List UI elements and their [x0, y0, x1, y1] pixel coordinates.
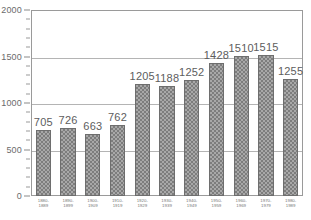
bar-group[interactable]: 1252 — [184, 10, 199, 196]
x-tick-label-line: 1959 — [204, 203, 229, 208]
bar[interactable] — [85, 134, 100, 196]
bar[interactable] — [110, 125, 125, 196]
y-minor-tick-700 — [26, 130, 30, 131]
bar-value-label: 726 — [59, 114, 78, 126]
y-minor-tick-300 — [26, 168, 30, 169]
x-tick-label: 1970-1979 — [254, 198, 279, 208]
x-tick-label-line: 1969 — [229, 203, 254, 208]
x-tick-label: 1900-1909 — [80, 198, 105, 208]
bar[interactable] — [184, 80, 199, 196]
x-tick-label: 1930-1939 — [155, 198, 180, 208]
y-minor-tick-400 — [26, 158, 30, 159]
bar-group[interactable]: 705 — [36, 10, 51, 196]
y-minor-tick-800 — [26, 121, 30, 122]
bar-value-label: 1252 — [179, 66, 204, 78]
bar-group[interactable]: 1205 — [135, 10, 150, 196]
bar-value-label: 1510 — [229, 42, 254, 54]
bar-value-label: 1255 — [278, 65, 303, 77]
bar-value-label: 663 — [83, 120, 102, 132]
y-minor-tick-1700 — [26, 37, 30, 38]
x-tick-label: 1960-1969 — [229, 198, 254, 208]
bar-value-label: 1515 — [253, 41, 278, 53]
bar-value-label: 1205 — [130, 70, 155, 82]
x-tick-label: 1890-1899 — [56, 198, 81, 208]
y-minor-tick-900 — [26, 112, 30, 113]
y-minor-tick-1800 — [26, 28, 30, 29]
bar-group[interactable]: 1428 — [209, 10, 224, 196]
x-tick-label-line: 1929 — [130, 203, 155, 208]
y-major-tick-2000 — [24, 10, 30, 11]
x-tick-label-line: 1949 — [179, 203, 204, 208]
x-tick-label: 1880-1889 — [31, 198, 56, 208]
y-major-tick-1500 — [24, 56, 30, 57]
bar[interactable] — [209, 63, 224, 196]
bar[interactable] — [258, 55, 273, 196]
x-tick-label: 1940-1949 — [179, 198, 204, 208]
x-tick-label-line: 1979 — [254, 203, 279, 208]
bar-group[interactable]: 663 — [85, 10, 100, 196]
x-axis: 1880-18891890-18991900-19091910-19191920… — [31, 198, 303, 218]
bar-value-label: 762 — [108, 111, 127, 123]
y-minor-tick-100 — [26, 186, 30, 187]
y-minor-tick-1200 — [26, 84, 30, 85]
y-minor-tick-1900 — [26, 19, 30, 20]
bar-chart: 0500100015002000 70572666376212051188125… — [0, 0, 311, 220]
bar-group[interactable]: 1515 — [258, 10, 273, 196]
bar[interactable] — [60, 128, 75, 196]
bars-layer: 7057266637621205118812521428151015151255 — [31, 10, 303, 196]
bar-value-label: 1428 — [204, 49, 229, 61]
bar-group[interactable]: 726 — [60, 10, 75, 196]
x-tick-label-line: 1919 — [105, 203, 130, 208]
bar-group[interactable]: 1188 — [159, 10, 174, 196]
x-tick-label: 1980-1989 — [278, 198, 303, 208]
x-tick-label: 1950-1959 — [204, 198, 229, 208]
x-tick-label-line: 1909 — [80, 203, 105, 208]
y-tick-label-1000: 1000 — [1, 98, 22, 108]
x-tick-label: 1910-1919 — [105, 198, 130, 208]
y-minor-tick-200 — [26, 177, 30, 178]
bar-group[interactable]: 762 — [110, 10, 125, 196]
y-tick-label-500: 500 — [6, 145, 22, 155]
bar-group[interactable]: 1510 — [234, 10, 249, 196]
bar-value-label: 1188 — [155, 72, 179, 84]
bar[interactable] — [159, 86, 174, 196]
y-tick-label-1500: 1500 — [1, 52, 22, 62]
bar[interactable] — [234, 56, 249, 196]
y-tick-label-2000: 2000 — [1, 5, 22, 15]
x-tick-label-line: 1899 — [56, 203, 81, 208]
y-axis: 0500100015002000 — [0, 0, 31, 220]
y-major-tick-1000 — [24, 103, 30, 104]
y-major-tick-0 — [24, 196, 30, 197]
bar[interactable] — [283, 79, 298, 196]
bar[interactable] — [36, 130, 51, 196]
x-tick-label-line: 1889 — [31, 203, 56, 208]
x-tick-label: 1920-1929 — [130, 198, 155, 208]
y-minor-tick-1300 — [26, 75, 30, 76]
y-minor-tick-1100 — [26, 93, 30, 94]
y-major-tick-500 — [24, 149, 30, 150]
bar-group[interactable]: 1255 — [283, 10, 298, 196]
bar-value-label: 705 — [34, 116, 53, 128]
y-tick-label-0: 0 — [17, 191, 22, 201]
y-minor-tick-1600 — [26, 47, 30, 48]
bar[interactable] — [135, 84, 150, 196]
y-minor-tick-600 — [26, 140, 30, 141]
x-tick-label-line: 1939 — [155, 203, 180, 208]
x-tick-label-line: 1989 — [278, 203, 303, 208]
y-minor-tick-1400 — [26, 65, 30, 66]
